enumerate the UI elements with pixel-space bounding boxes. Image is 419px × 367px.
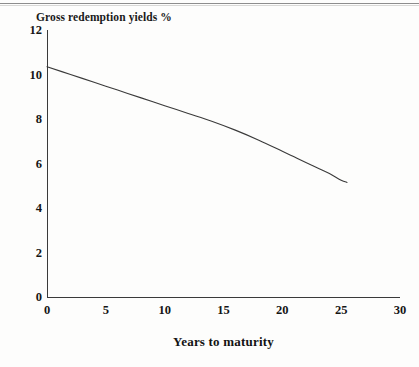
page-top-rule xyxy=(0,3,419,4)
y-tick-label-10: 10 xyxy=(16,67,42,82)
yield-curve-series xyxy=(47,30,400,298)
plot-area xyxy=(47,30,400,297)
x-tick-label-25: 25 xyxy=(321,303,361,318)
page-top-rule-secondary xyxy=(0,5,419,6)
x-axis-label: Years to maturity xyxy=(47,334,400,350)
y-tick-label-6: 6 xyxy=(16,156,42,171)
y-tick-label-2: 2 xyxy=(16,245,42,260)
x-tick-label-15: 15 xyxy=(204,303,244,318)
y-tick-label-12: 12 xyxy=(16,23,42,38)
x-axis-tick-labels: 051015202530 xyxy=(47,303,400,323)
x-tick-label-10: 10 xyxy=(145,303,185,318)
y-axis-tick-labels: 024681012 xyxy=(12,30,42,298)
x-tick-label-30: 30 xyxy=(380,303,419,318)
chart-title: Gross redemption yields % xyxy=(36,11,172,23)
chart-page: Gross redemption yields % 024681012 0510… xyxy=(0,0,419,367)
y-tick-label-8: 8 xyxy=(16,112,42,127)
x-tick-label-5: 5 xyxy=(86,303,126,318)
x-tick-label-0: 0 xyxy=(27,303,67,318)
y-tick-label-4: 4 xyxy=(16,201,42,216)
x-tick-label-20: 20 xyxy=(262,303,302,318)
yield-curve-path xyxy=(47,67,347,183)
